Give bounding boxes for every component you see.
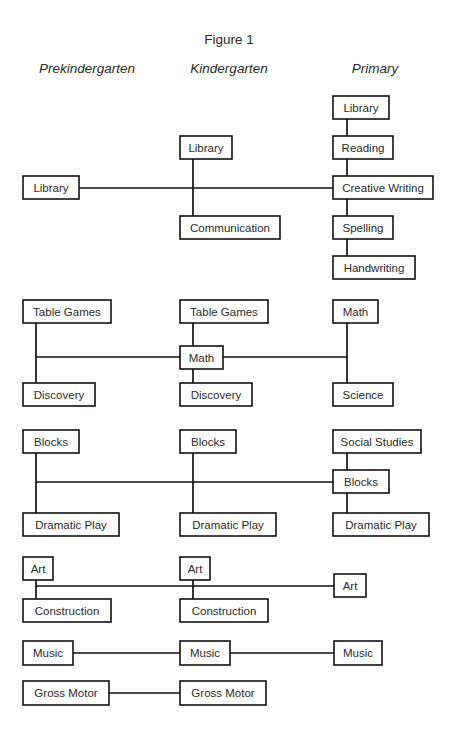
node-label-pre-library: Library (33, 182, 68, 194)
node-kin-table-games: Table Games (180, 300, 268, 323)
node-kin-math: Math (180, 346, 223, 369)
node-kin-music: Music (180, 641, 230, 665)
node-label-pri-handwriting: Handwriting (344, 262, 405, 274)
node-label-kin-art: Art (188, 563, 204, 575)
node-label-pri-music: Music (343, 647, 373, 659)
node-pre-dramatic-play: Dramatic Play (23, 513, 119, 536)
node-pre-table-games: Table Games (23, 300, 111, 323)
node-label-kin-blocks: Blocks (191, 436, 225, 448)
node-pri-spelling: Spelling (333, 216, 393, 239)
node-label-kin-table-games: Table Games (190, 306, 258, 318)
node-label-pri-art: Art (343, 580, 359, 592)
node-label-kin-library: Library (188, 142, 223, 154)
column-heading-kindergarten: Kindergarten (190, 61, 267, 76)
node-label-pre-gross-motor: Gross Motor (34, 687, 97, 699)
node-label-pri-creative-writing: Creative Writing (342, 182, 424, 194)
node-pri-dramatic-play: Dramatic Play (333, 513, 429, 536)
node-label-pri-blocks: Blocks (344, 476, 378, 488)
node-label-pre-discovery: Discovery (34, 389, 85, 401)
node-label-pri-spelling: Spelling (343, 222, 384, 234)
node-label-kin-communication: Communication (190, 222, 270, 234)
node-label-pre-dramatic-play: Dramatic Play (35, 519, 107, 531)
node-pri-handwriting: Handwriting (333, 256, 415, 279)
node-pri-science: Science (333, 383, 393, 406)
node-pre-blocks: Blocks (23, 430, 79, 453)
node-label-kin-math: Math (189, 352, 215, 364)
node-pre-art: Art (23, 557, 53, 580)
node-label-pri-dramatic-play: Dramatic Play (345, 519, 417, 531)
node-pre-discovery: Discovery (23, 383, 95, 406)
node-kin-communication: Communication (180, 216, 280, 239)
node-pre-music: Music (23, 641, 73, 665)
node-label-pre-art: Art (31, 563, 47, 575)
node-pri-art: Art (334, 574, 366, 597)
column-heading-prekindergarten: Prekindergarten (39, 61, 135, 76)
node-kin-construction: Construction (180, 599, 268, 622)
figure-title: Figure 1 (204, 32, 254, 47)
node-pri-music: Music (334, 641, 382, 665)
node-kin-dramatic-play: Dramatic Play (180, 513, 276, 536)
node-label-pri-social-studies: Social Studies (341, 436, 414, 448)
node-label-kin-construction: Construction (192, 605, 257, 617)
node-pri-library: Library (333, 96, 389, 119)
node-label-pre-table-games: Table Games (33, 306, 101, 318)
node-kin-blocks: Blocks (180, 430, 236, 453)
node-kin-library: Library (180, 136, 232, 159)
column-heading-primary: Primary (352, 61, 400, 76)
node-pri-creative-writing: Creative Writing (333, 176, 433, 199)
curriculum-continuity-diagram: Figure 1 PrekindergartenKindergartenPrim… (0, 0, 458, 740)
node-label-pre-music: Music (33, 647, 63, 659)
node-pri-reading: Reading (333, 136, 393, 159)
node-label-pre-blocks: Blocks (34, 436, 68, 448)
node-label-pri-library: Library (343, 102, 378, 114)
node-kin-art: Art (180, 557, 210, 580)
node-pre-gross-motor: Gross Motor (23, 681, 109, 705)
node-pri-blocks: Blocks (333, 470, 389, 493)
node-pri-math: Math (333, 300, 378, 323)
node-label-pri-science: Science (343, 389, 384, 401)
node-pri-social-studies: Social Studies (333, 430, 421, 453)
node-label-pri-reading: Reading (342, 142, 385, 154)
node-label-kin-dramatic-play: Dramatic Play (192, 519, 264, 531)
node-label-kin-discovery: Discovery (191, 389, 242, 401)
node-pre-construction: Construction (23, 599, 111, 622)
node-label-pri-math: Math (343, 306, 369, 318)
node-kin-gross-motor: Gross Motor (180, 681, 266, 705)
node-kin-discovery: Discovery (180, 383, 252, 406)
node-label-kin-music: Music (190, 647, 220, 659)
figure-container: Figure 1 PrekindergartenKindergartenPrim… (0, 0, 458, 740)
node-pre-library: Library (23, 176, 79, 199)
node-label-kin-gross-motor: Gross Motor (191, 687, 254, 699)
node-label-pre-construction: Construction (35, 605, 100, 617)
